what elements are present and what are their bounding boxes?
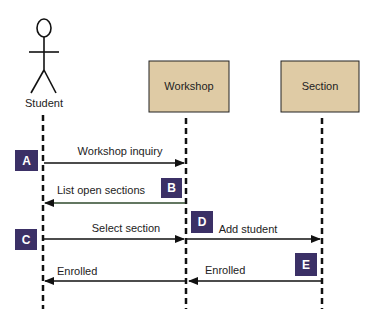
- message-d: Add student D: [187, 211, 320, 239]
- message-a: Workshop inquiry A: [15, 145, 184, 171]
- student-label: Student: [25, 97, 63, 109]
- message-e: Enrolled E: [189, 253, 321, 281]
- workshop-label: Workshop: [164, 80, 213, 92]
- message-e-label: Enrolled: [205, 264, 245, 276]
- message-b: List open sections B: [45, 178, 185, 203]
- workshop-object: Workshop: [149, 61, 229, 112]
- badge-d-text: D: [198, 215, 207, 229]
- section-label: Section: [302, 80, 339, 92]
- badge-e-text: E: [302, 258, 310, 272]
- message-enrolled-student: Enrolled: [45, 265, 185, 281]
- section-object: Section: [281, 61, 359, 112]
- message-a-label: Workshop inquiry: [78, 145, 163, 157]
- student-actor-icon: [29, 19, 59, 93]
- badge-c-text: C: [22, 233, 31, 247]
- message-b-label: List open sections: [57, 184, 146, 196]
- badge-a-text: A: [22, 154, 31, 168]
- badge-b-text: B: [167, 181, 176, 195]
- sequence-diagram: Student Workshop Section Workshop inquir…: [0, 0, 367, 329]
- message-d-label: Add student: [219, 223, 278, 235]
- message-c-label: Select section: [92, 222, 160, 234]
- message-f-label: Enrolled: [57, 265, 97, 277]
- message-c: Select section C: [15, 222, 184, 250]
